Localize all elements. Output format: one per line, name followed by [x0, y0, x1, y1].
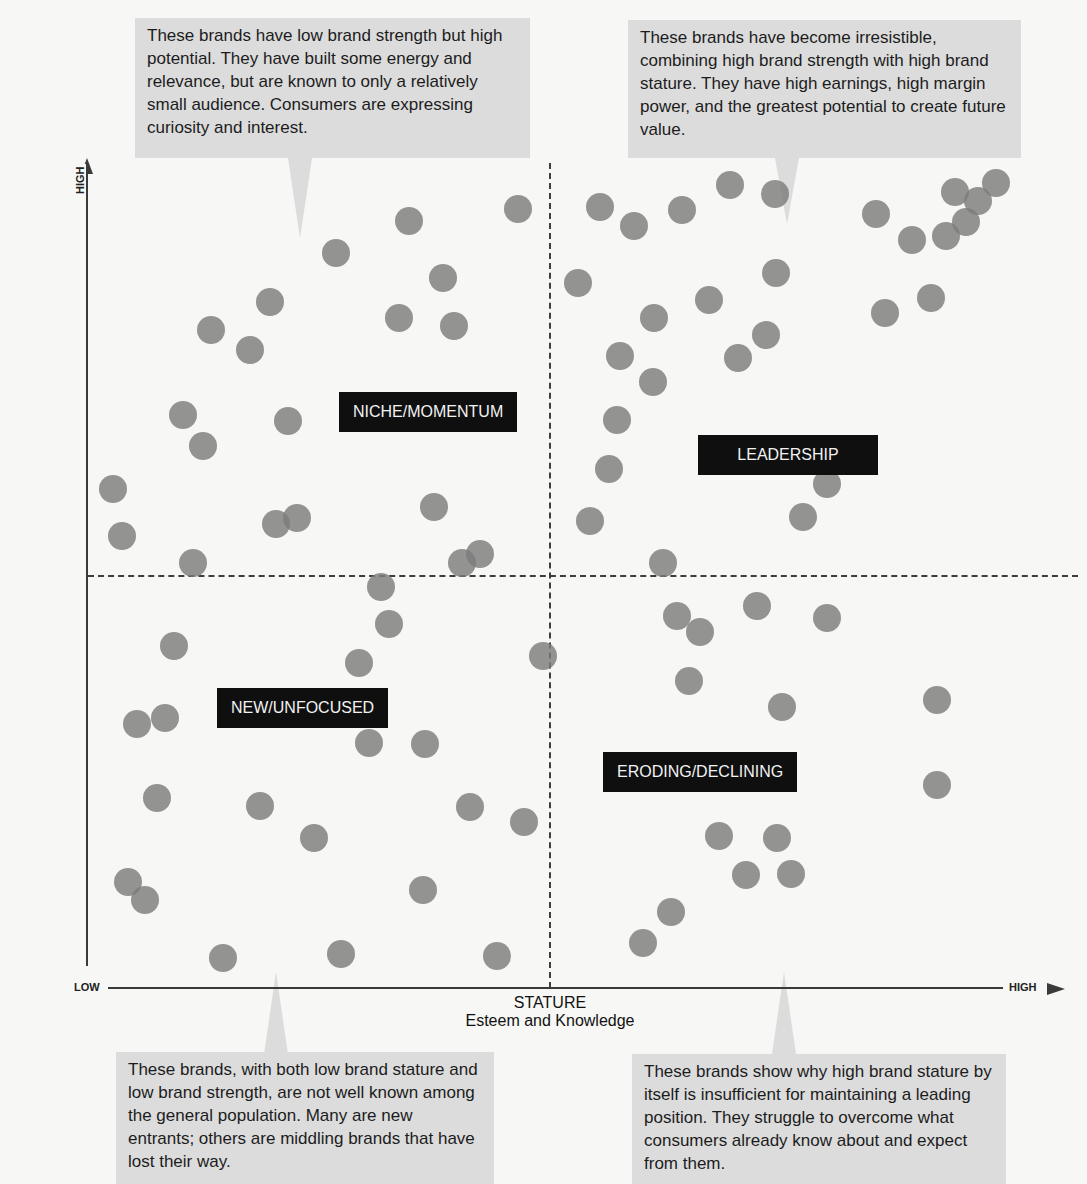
data-point — [440, 312, 468, 340]
callout-niche-text: These brands have low brand strength but… — [147, 26, 502, 137]
callout-niche: These brands have low brand strength but… — [135, 18, 530, 158]
callout-new-unfocused-text: These brands, with both low brand statur… — [128, 1060, 478, 1171]
callout-new-unfocused-pointer — [264, 972, 288, 1054]
data-point — [941, 178, 969, 206]
data-point — [768, 693, 796, 721]
data-point — [813, 604, 841, 632]
data-point — [411, 730, 439, 758]
data-point — [510, 808, 538, 836]
callout-eroding-text: These brands show why high brand stature… — [644, 1062, 992, 1173]
data-point — [327, 940, 355, 968]
data-point — [345, 649, 373, 677]
data-point — [649, 549, 677, 577]
callout-niche-pointer — [288, 158, 312, 238]
strength-divider — [88, 575, 1078, 577]
data-point — [629, 929, 657, 957]
callout-new-unfocused: These brands, with both low brand statur… — [116, 1052, 494, 1184]
data-point — [705, 822, 733, 850]
callout-leadership: These brands have become irresistible, c… — [628, 20, 1021, 158]
data-point — [108, 522, 136, 550]
data-point — [898, 226, 926, 254]
data-point — [256, 288, 284, 316]
data-point — [695, 286, 723, 314]
x-axis-title: STATURE Esteem and Knowledge — [420, 994, 680, 1030]
data-point — [675, 667, 703, 695]
data-point — [131, 886, 159, 914]
data-point — [668, 196, 696, 224]
data-point — [409, 876, 437, 904]
data-point — [763, 824, 791, 852]
data-point — [429, 264, 457, 292]
data-point — [640, 304, 668, 332]
data-point — [686, 618, 714, 646]
data-point — [586, 193, 614, 221]
x-axis — [108, 987, 1003, 989]
quadrant-label-eroding-declining: ERODING/DECLINING — [603, 752, 797, 792]
data-point — [871, 299, 899, 327]
data-point — [716, 171, 744, 199]
data-point — [762, 259, 790, 287]
data-point — [529, 642, 557, 670]
data-point — [322, 239, 350, 267]
data-point — [274, 407, 302, 435]
data-point — [761, 180, 789, 208]
data-point — [143, 784, 171, 812]
data-point — [466, 540, 494, 568]
x-axis-arrow-icon — [1047, 983, 1065, 995]
data-point — [420, 493, 448, 521]
data-point — [777, 860, 805, 888]
data-point — [606, 342, 634, 370]
data-point — [576, 507, 604, 535]
data-point — [752, 321, 780, 349]
data-point — [456, 793, 484, 821]
data-point — [375, 610, 403, 638]
data-point — [620, 212, 648, 240]
data-point — [179, 549, 207, 577]
data-point — [724, 344, 752, 372]
data-point — [923, 686, 951, 714]
data-point — [189, 432, 217, 460]
data-point — [483, 942, 511, 970]
x-axis-title-sub: Esteem and Knowledge — [420, 1012, 680, 1030]
data-point — [862, 200, 890, 228]
data-point — [657, 898, 685, 926]
data-point — [160, 632, 188, 660]
quadrant-label-leadership: LEADERSHIP — [698, 435, 878, 475]
data-point — [367, 573, 395, 601]
data-point — [603, 406, 631, 434]
data-point — [564, 269, 592, 297]
y-axis-high-label: HIGH — [74, 165, 86, 197]
data-point — [917, 284, 945, 312]
data-point — [789, 503, 817, 531]
data-point — [283, 504, 311, 532]
quadrant-label-new-unfocused: NEW/UNFOCUSED — [217, 688, 388, 728]
x-axis-low-label: LOW — [74, 981, 100, 993]
data-point — [732, 861, 760, 889]
data-point — [197, 316, 225, 344]
data-point — [639, 368, 667, 396]
callout-eroding: These brands show why high brand stature… — [632, 1054, 1006, 1184]
data-point — [236, 336, 264, 364]
y-axis — [86, 170, 88, 966]
x-axis-high-label: HIGH — [1009, 981, 1037, 993]
data-point — [123, 710, 151, 738]
callout-eroding-pointer — [772, 972, 796, 1054]
data-point — [743, 592, 771, 620]
data-point — [209, 944, 237, 972]
data-point — [395, 207, 423, 235]
quadrant-label-niche-momentum: NICHE/MOMENTUM — [339, 392, 517, 432]
data-point — [169, 401, 197, 429]
data-point — [246, 792, 274, 820]
data-point — [504, 195, 532, 223]
data-point — [385, 304, 413, 332]
data-point — [923, 771, 951, 799]
data-point — [151, 704, 179, 732]
data-point — [355, 729, 383, 757]
data-point — [300, 824, 328, 852]
data-point — [99, 475, 127, 503]
data-point — [595, 455, 623, 483]
callout-leadership-text: These brands have become irresistible, c… — [640, 28, 1006, 139]
data-point — [982, 169, 1010, 197]
x-axis-title-main: STATURE — [420, 994, 680, 1012]
